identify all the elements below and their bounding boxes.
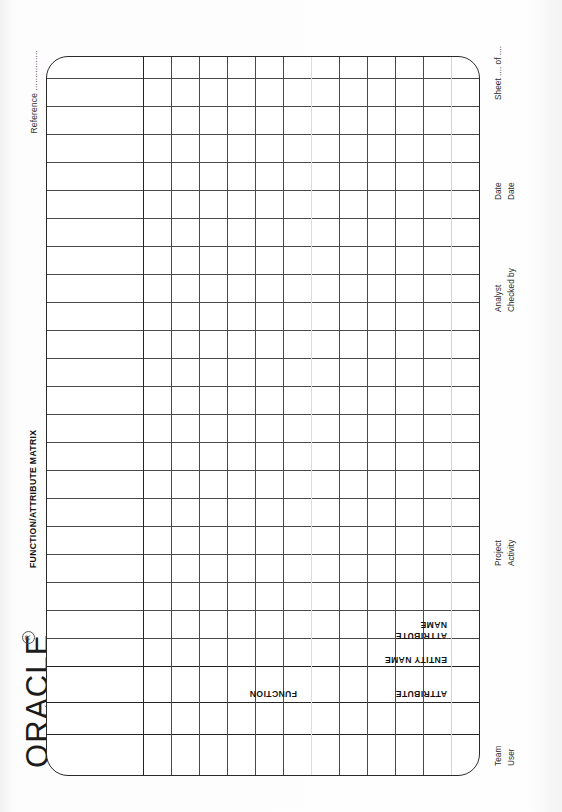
grid-hrule-body <box>367 57 368 775</box>
footer-project-label[interactable]: Project <box>492 540 505 566</box>
footer-checked-by-label[interactable]: Checked by <box>505 268 518 312</box>
grid-vrule-body <box>47 302 479 303</box>
grid-vrule-label-band-1 <box>47 734 479 735</box>
column-header-attribute-name: ATTRIBUTE NAME <box>395 620 447 641</box>
column-header-entity-name: ENTITY NAME <box>385 655 448 666</box>
grid-vrule-body <box>47 78 479 79</box>
grid-hrule-body <box>339 57 340 775</box>
scanned-page-background: ORACLE R <box>0 0 562 812</box>
form-title: FUNCTION/ATTRIBUTE MATRIX <box>28 430 38 568</box>
grid-hrule-header-sep <box>143 57 144 775</box>
grid-hrule-body <box>199 57 200 775</box>
grid-hrule-body <box>255 57 256 775</box>
grid-vrule-body <box>47 554 479 555</box>
oracle-function-attribute-matrix-form: ORACLE R <box>0 0 562 812</box>
grid-hrule-body <box>227 57 228 775</box>
grid-vrule-body <box>47 414 479 415</box>
footer-team-label[interactable]: Team <box>492 746 505 766</box>
footer-date-block: Date Date <box>492 182 518 200</box>
registered-trademark-icon: R <box>22 631 35 644</box>
grid-hrule-body <box>395 57 396 775</box>
footer-date-checked-label[interactable]: Date <box>505 182 518 200</box>
column-header-attribute: ATTRIBUTE <box>395 689 447 700</box>
grid-hrule-body <box>451 57 452 775</box>
grid-vrule-body <box>47 610 479 611</box>
grid-vrule-body <box>47 218 479 219</box>
grid-vrule-body <box>47 526 479 527</box>
grid-vrule-label-band-2 <box>47 702 479 703</box>
grid-hrule-body <box>311 57 312 775</box>
grid-vrule-body <box>47 498 479 499</box>
reference-field[interactable]: Reference ................ <box>29 50 39 133</box>
grid-vrule-body <box>47 470 479 471</box>
footer-team-block: Team User <box>492 746 518 766</box>
matrix-grid-frame: ATTRIBUTE ENTITY NAME ATTRIBUTE NAME FUN… <box>46 56 480 776</box>
grid-hrule-body <box>423 57 424 775</box>
footer-analyst-block: Analyst Checked by <box>492 268 518 312</box>
grid-vrule-body <box>47 386 479 387</box>
grid-vrule-body <box>47 246 479 247</box>
column-header-function: FUNCTION <box>249 689 297 700</box>
grid-vrule-body <box>47 190 479 191</box>
grid-vrule-body <box>47 330 479 331</box>
grid-vrule-body <box>47 274 479 275</box>
footer-sheet-number[interactable]: Sheet .... of .... <box>492 46 505 100</box>
grid-vrule-body-start <box>47 666 479 667</box>
footer-user-label[interactable]: User <box>505 746 518 766</box>
grid-hrule-body <box>283 57 284 775</box>
footer-activity-label[interactable]: Activity <box>505 540 518 566</box>
matrix-grid-inner: ATTRIBUTE ENTITY NAME ATTRIBUTE NAME FUN… <box>47 57 479 775</box>
grid-vrule-body <box>47 106 479 107</box>
footer-project-block: Project Activity <box>492 540 518 566</box>
grid-vrule-body <box>47 162 479 163</box>
grid-hrule-body <box>171 57 172 775</box>
grid-vrule-body <box>47 582 479 583</box>
grid-vrule-body <box>47 358 479 359</box>
rotated-sheet-container: ORACLE R <box>0 0 562 812</box>
grid-vrule-body <box>47 134 479 135</box>
footer-date-analyst-label[interactable]: Date <box>492 182 505 200</box>
grid-vrule-body <box>47 442 479 443</box>
footer-analyst-label[interactable]: Analyst <box>492 268 505 312</box>
